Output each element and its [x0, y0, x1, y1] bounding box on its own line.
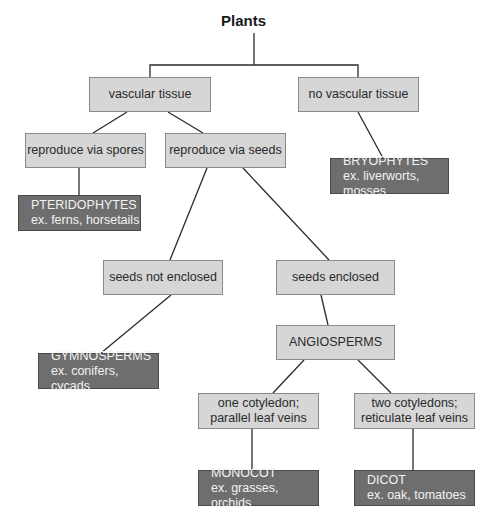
- node-example: ex. liverworts, mosses: [343, 169, 448, 199]
- node-label: reproduce via spores: [27, 143, 144, 158]
- node-monocot: MONOCOT ex. grasses, orchids: [198, 470, 319, 506]
- node-label: MONOCOT: [211, 466, 276, 481]
- node-angiosperms: ANGIOSPERMS: [276, 325, 395, 360]
- node-example: ex. conifers, cycads: [51, 364, 158, 394]
- node-example: ex. ferns, horsetails: [31, 213, 139, 228]
- edge-notenclosed-gymnosperms: [101, 295, 171, 353]
- node-seeds-enclosed: seeds enclosed: [276, 260, 395, 295]
- node-label: DICOT: [367, 473, 406, 488]
- node-bryophytes: BRYOPHYTES ex. liverworts, mosses: [330, 158, 449, 194]
- node-one-cotyledon: one cotyledon; parallel leaf veins: [198, 393, 319, 429]
- edge-vascular-seeds: [168, 112, 203, 133]
- edge-seeds-notenclosed: [170, 168, 207, 260]
- node-pteridophytes: PTERIDOPHYTES ex. ferns, horsetails: [18, 195, 141, 231]
- node-label: vascular tissue: [109, 87, 192, 102]
- node-label: GYMNOSPERMS: [51, 349, 151, 364]
- edge-vascular-spores: [93, 112, 127, 133]
- node-label-line2: parallel leaf veins: [210, 411, 307, 426]
- node-label: two cotyledons;: [371, 396, 457, 411]
- node-example: ex. oak, tomatoes: [367, 488, 466, 503]
- node-label: no vascular tissue: [308, 87, 408, 102]
- node-seeds-not-enclosed: seeds not enclosed: [103, 260, 223, 295]
- node-label: BRYOPHYTES: [343, 154, 428, 169]
- node-no-vascular-tissue: no vascular tissue: [298, 77, 419, 112]
- node-two-cotyledons: two cotyledons; reticulate leaf veins: [354, 393, 475, 429]
- node-label-line2: reticulate leaf veins: [361, 411, 468, 426]
- node-label: ANGIOSPERMS: [289, 335, 382, 350]
- node-reproduce-via-seeds: reproduce via seeds: [165, 133, 286, 168]
- diagram-title: Plants: [0, 12, 487, 29]
- node-label: one cotyledon;: [218, 396, 299, 411]
- node-label: PTERIDOPHYTES: [31, 198, 137, 213]
- edge-root-bar: [150, 65, 358, 77]
- node-example: ex. grasses, orchids: [211, 481, 318, 511]
- node-vascular-tissue: vascular tissue: [89, 77, 211, 112]
- node-label: seeds not enclosed: [109, 270, 217, 285]
- node-label: reproduce via seeds: [169, 143, 282, 158]
- node-dicot: DICOT ex. oak, tomatoes: [354, 470, 475, 506]
- edge-angiosperms-one: [273, 360, 304, 393]
- node-label: seeds enclosed: [292, 270, 379, 285]
- edge-enclosed-angiosperms: [321, 295, 328, 325]
- edge-novascular-bryophytes: [358, 112, 383, 158]
- edge-seeds-enclosed: [243, 168, 329, 260]
- edge-angiosperms-two: [358, 360, 391, 393]
- node-gymnosperms: GYMNOSPERMS ex. conifers, cycads: [38, 353, 159, 389]
- node-reproduce-via-spores: reproduce via spores: [25, 133, 146, 168]
- plant-classification-diagram: Plants vascular tissue no vascular tissu…: [0, 0, 487, 524]
